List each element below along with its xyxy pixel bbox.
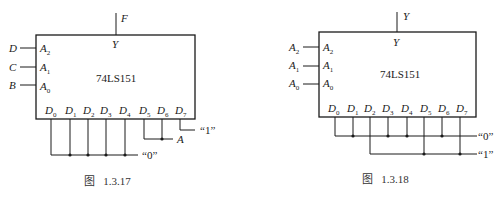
chip-name: 74LS151 <box>96 72 136 84</box>
data-pin-label: D2 <box>363 102 376 117</box>
logic-zero-label: “0” <box>142 149 157 161</box>
data-pin-label: D7 <box>455 102 468 117</box>
junction-dot <box>440 134 443 137</box>
chip-name: 74LS151 <box>380 68 420 80</box>
data-pin-label: D3 <box>381 102 394 117</box>
select-signal-label: A1 <box>288 59 300 74</box>
junction-dot <box>123 153 126 156</box>
junction-dot <box>386 134 389 137</box>
logic-one-label: “1” <box>200 124 215 136</box>
junction-dot <box>68 153 71 156</box>
select-pin-label: A0 <box>322 77 334 92</box>
select-signal-label: C <box>9 61 17 73</box>
data-pin-label: D4 <box>400 102 413 117</box>
figure-1-3-18: Y Y 74LS151 A2 A1 A0 A2 A1 A0 D0 D1 D2 D… <box>288 10 493 185</box>
figure-1-3-17: F Y 74LS151 D C B A2 A1 A0 D0 D1 D2 D3 D… <box>8 12 215 187</box>
select-signal-label: A0 <box>288 77 300 92</box>
junction-dot <box>422 152 425 155</box>
data-pin-label: D4 <box>118 104 131 119</box>
logic-one-label: “1” <box>478 148 493 160</box>
diagram-canvas: F Y 74LS151 D C B A2 A1 A0 D0 D1 D2 D3 D… <box>0 0 498 197</box>
select-signal-label: D <box>8 42 17 54</box>
data-pin-label: D1 <box>64 104 77 119</box>
select-pin-label: A1 <box>322 59 334 74</box>
data-pin-label: D3 <box>99 104 112 119</box>
select-pin-label: A1 <box>39 61 51 76</box>
data-pin-label: D5 <box>419 102 432 117</box>
data-pin-label: D0 <box>44 104 57 119</box>
data-pin-label: D7 <box>174 104 187 119</box>
junction-dot <box>405 134 408 137</box>
logic-zero-label: “0” <box>478 130 493 142</box>
output-signal-label: Y <box>403 10 411 22</box>
data-pin-label: D6 <box>156 104 169 119</box>
junction-dot <box>104 153 107 156</box>
output-signal-label: F <box>120 12 128 24</box>
output-pin-label: Y <box>393 36 401 48</box>
select-pin-label: A2 <box>322 41 334 56</box>
data-pin-label: D5 <box>138 104 151 119</box>
output-pin-label: Y <box>112 38 120 50</box>
data-pin-label: D6 <box>437 102 450 117</box>
select-pin-label: A2 <box>39 42 51 57</box>
figure-caption: 图 1.3.18 <box>362 173 409 185</box>
junction-dot <box>160 137 163 140</box>
junction-dot <box>86 153 89 156</box>
junction-dot <box>458 152 461 155</box>
data-pin-label: D1 <box>346 102 359 117</box>
data-pin-label: D0 <box>327 102 340 117</box>
select-signal-label: B <box>9 79 16 91</box>
select-pin-label: A0 <box>39 80 51 95</box>
figure-caption: 图 1.3.17 <box>84 175 131 187</box>
select-signal-label: A2 <box>288 41 300 56</box>
junction-dot <box>351 134 354 137</box>
input-a-label: A <box>176 133 184 145</box>
data-pin-label: D2 <box>82 104 95 119</box>
